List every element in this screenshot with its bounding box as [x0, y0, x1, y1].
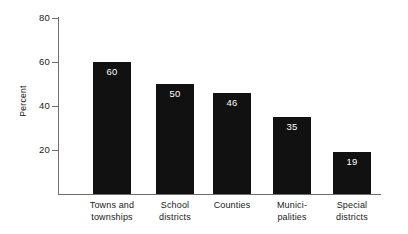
bar-value-label: 19	[333, 156, 371, 167]
y-tick-mark-20	[52, 150, 59, 151]
bar-value-label: 60	[93, 66, 131, 77]
y-tick-label-20: 20	[22, 144, 50, 155]
x-axis-line	[58, 194, 381, 195]
bar-counties: 46	[213, 93, 251, 194]
bar-school-districts: 50	[156, 84, 194, 194]
bar-value-label: 46	[213, 97, 251, 108]
y-tick-label-80: 80	[22, 12, 50, 23]
bar-municipalities: 35	[273, 117, 311, 194]
bar-chart: Percent 80 60 40 20 60 50 46 35 19 Towns…	[0, 0, 408, 234]
plot-area: Percent 80 60 40 20 60 50 46 35 19 Towns…	[0, 0, 408, 234]
x-category-label-special-districts: Special districts	[317, 200, 387, 223]
bar-special-districts: 19	[333, 152, 371, 194]
y-tick-mark-80	[52, 18, 59, 19]
bar-value-label: 50	[156, 88, 194, 99]
y-tick-mark-60	[52, 62, 59, 63]
y-tick-label-40: 40	[22, 100, 50, 111]
y-tick-mark-40	[52, 106, 59, 107]
y-tick-label-60: 60	[22, 56, 50, 67]
bar-value-label: 35	[273, 121, 311, 132]
bar-towns-and-townships: 60	[93, 62, 131, 194]
